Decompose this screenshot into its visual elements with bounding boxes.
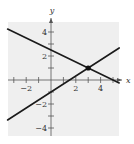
x-axis-arrow-icon — [117, 78, 122, 82]
y-tick-label: −4 — [35, 124, 47, 133]
intersection-point — [86, 65, 91, 70]
y-tick-label: −2 — [35, 100, 47, 109]
x-tick-label: −2 — [20, 84, 32, 93]
y-axis-label: y — [49, 6, 55, 15]
x-tick-label: 4 — [98, 84, 103, 93]
y-tick-label: 4 — [42, 28, 47, 37]
x-tick-label: 2 — [73, 84, 78, 93]
y-axis-arrow-icon — [49, 18, 53, 23]
y-tick-label: 2 — [42, 52, 47, 61]
line-chart: −22442−2−4xy — [0, 0, 134, 144]
data-points — [86, 65, 91, 70]
x-axis-label: x — [126, 76, 131, 85]
